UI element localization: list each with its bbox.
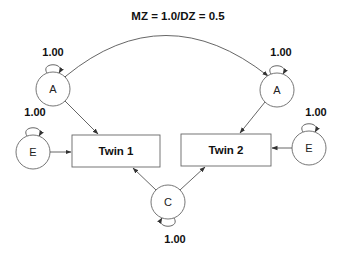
- observed-twin2: Twin 2: [181, 134, 271, 166]
- node-c: C 1.00: [151, 185, 186, 245]
- svg-text:A: A: [273, 84, 281, 96]
- c-variance-label: 1.00: [164, 233, 185, 245]
- svg-text:Twin 1: Twin 1: [99, 145, 135, 157]
- e1-variance-label: 1.00: [24, 106, 45, 118]
- path-c-twin2: [180, 167, 205, 190]
- node-a-twin1: A 1.00: [36, 46, 70, 106]
- path-a2-twin2: [240, 102, 265, 133]
- svg-text:E: E: [29, 146, 36, 158]
- twin-ace-diagram: MZ = 1.0/DZ = 0.5 A 1.00 A 1.00 E 1.00 E…: [0, 0, 343, 255]
- e2-variance-label: 1.00: [305, 106, 326, 118]
- a1-variance-label: 1.00: [42, 46, 63, 58]
- path-a1-twin1: [65, 101, 98, 134]
- svg-text:C: C: [164, 196, 172, 208]
- covariance-label: MZ = 1.0/DZ = 0.5: [131, 10, 225, 22]
- path-c-twin1: [133, 168, 156, 190]
- node-e-twin1: E 1.00: [16, 106, 50, 169]
- node-e-twin2: E 1.00: [292, 106, 327, 165]
- a2-variance-label: 1.00: [270, 46, 291, 58]
- svg-text:Twin 2: Twin 2: [209, 144, 244, 156]
- svg-text:E: E: [305, 142, 312, 154]
- node-a-twin2: A 1.00: [260, 46, 294, 107]
- observed-twin1: Twin 1: [72, 135, 160, 167]
- a-covariance-arc: [66, 36, 268, 77]
- svg-text:A: A: [49, 83, 57, 95]
